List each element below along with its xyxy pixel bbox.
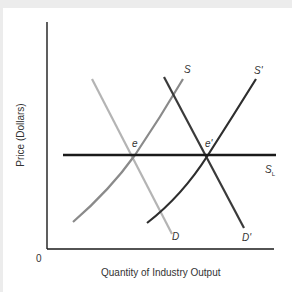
label-D: D [172, 231, 179, 242]
label-SL-sub: L [272, 171, 275, 177]
label-e-prime: e' [205, 138, 212, 149]
label-S: S [184, 64, 191, 75]
label-e: e [132, 138, 138, 149]
curve-S-prime [147, 79, 256, 223]
label-SL: SL [265, 164, 275, 177]
label-D-prime: D' [242, 232, 251, 243]
label-S-prime: S' [254, 65, 263, 76]
y-axis-label: Price (Dollars) [15, 103, 26, 166]
origin-label: 0 [36, 253, 42, 264]
chart-plot [0, 0, 292, 292]
x-axis-label: Quantity of Industry Output [101, 267, 221, 278]
label-SL-main: S [265, 164, 272, 175]
curve-D-prime [164, 77, 244, 228]
